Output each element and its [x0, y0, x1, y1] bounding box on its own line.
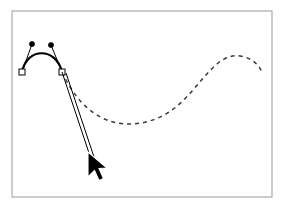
anchor-point-left[interactable] [19, 69, 25, 75]
control-handle-dot-right[interactable] [48, 42, 53, 47]
illustration-canvas [0, 0, 284, 208]
artboard-frame [12, 11, 272, 197]
control-handle-dot-left[interactable] [29, 41, 34, 46]
bezier-illustration [0, 0, 284, 208]
